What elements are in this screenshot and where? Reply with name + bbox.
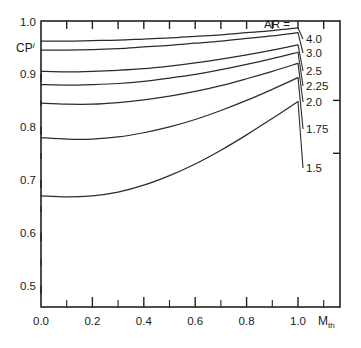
curve-ar-2.0 xyxy=(41,63,298,104)
y-tick-label: 0.7 xyxy=(20,174,36,186)
leader-line-ar-1.5 xyxy=(298,102,303,169)
x-tick-label: 0.2 xyxy=(84,315,100,327)
series-label-1.75: 1.75 xyxy=(306,123,328,135)
y-tick-label: 1.0 xyxy=(20,16,36,28)
series-label-1.5: 1.5 xyxy=(306,162,322,174)
x-tick-label: 0.6 xyxy=(187,315,203,327)
curve-ar-2.25 xyxy=(41,52,298,85)
y-tick-label: 0.9 xyxy=(20,68,36,80)
curve-ar-1.5 xyxy=(41,102,298,197)
svg-text:CPi: CPi xyxy=(16,41,35,55)
x-axis-title: Mth xyxy=(318,314,335,330)
svg-text:Mth: Mth xyxy=(318,314,335,330)
y-tick-label: 0.6 xyxy=(20,227,36,239)
cp-vs-mach-line-chart: 1.0 0.9 0.8 0.7 0.6 0.5 0.0 0.2 0.4 0.6 … xyxy=(0,0,361,348)
bottom-axis-ticks xyxy=(67,297,324,307)
series-label-2.25: 2.25 xyxy=(306,80,328,92)
chart-figure: 1.0 0.9 0.8 0.7 0.6 0.5 0.0 0.2 0.4 0.6 … xyxy=(0,0,361,348)
x-axis-tick-labels: 0.0 0.2 0.4 0.6 0.8 1.0 xyxy=(33,315,306,327)
y-axis-tick-labels: 1.0 0.9 0.8 0.7 0.6 0.5 xyxy=(20,16,36,293)
right-axis-ticks xyxy=(333,100,340,153)
curve-ar-1.75 xyxy=(41,78,298,140)
legend-title: AR = xyxy=(264,18,290,30)
data-curves xyxy=(41,28,298,197)
series-label-4.0: 4.0 xyxy=(306,33,322,45)
x-tick-label: 0.8 xyxy=(239,315,255,327)
x-axis-title-subscript: th xyxy=(328,321,335,330)
x-tick-label: 1.0 xyxy=(290,315,306,327)
series-labels: 4.0 3.0 2.5 2.25 2.0 1.75 1.5 xyxy=(306,33,328,174)
y-tick-label: 0.8 xyxy=(20,121,36,133)
x-tick-label: 0.0 xyxy=(33,315,49,327)
x-tick-label: 0.4 xyxy=(136,315,153,327)
y-axis-title-base: CP xyxy=(16,41,33,55)
series-leader-lines xyxy=(298,28,303,168)
x-axis-title-base: M xyxy=(318,314,328,328)
y-axis-title: CPi xyxy=(16,41,35,55)
series-label-2.0: 2.0 xyxy=(306,96,322,108)
y-tick-label: 0.5 xyxy=(20,280,36,292)
y-axis-title-superscript: i xyxy=(33,41,35,50)
curve-ar-2.5 xyxy=(41,45,298,72)
series-label-2.5: 2.5 xyxy=(306,65,322,77)
curve-ar-4.0 xyxy=(41,28,298,41)
series-label-3.0: 3.0 xyxy=(306,47,322,59)
legend-title-group: AR = xyxy=(264,18,290,30)
